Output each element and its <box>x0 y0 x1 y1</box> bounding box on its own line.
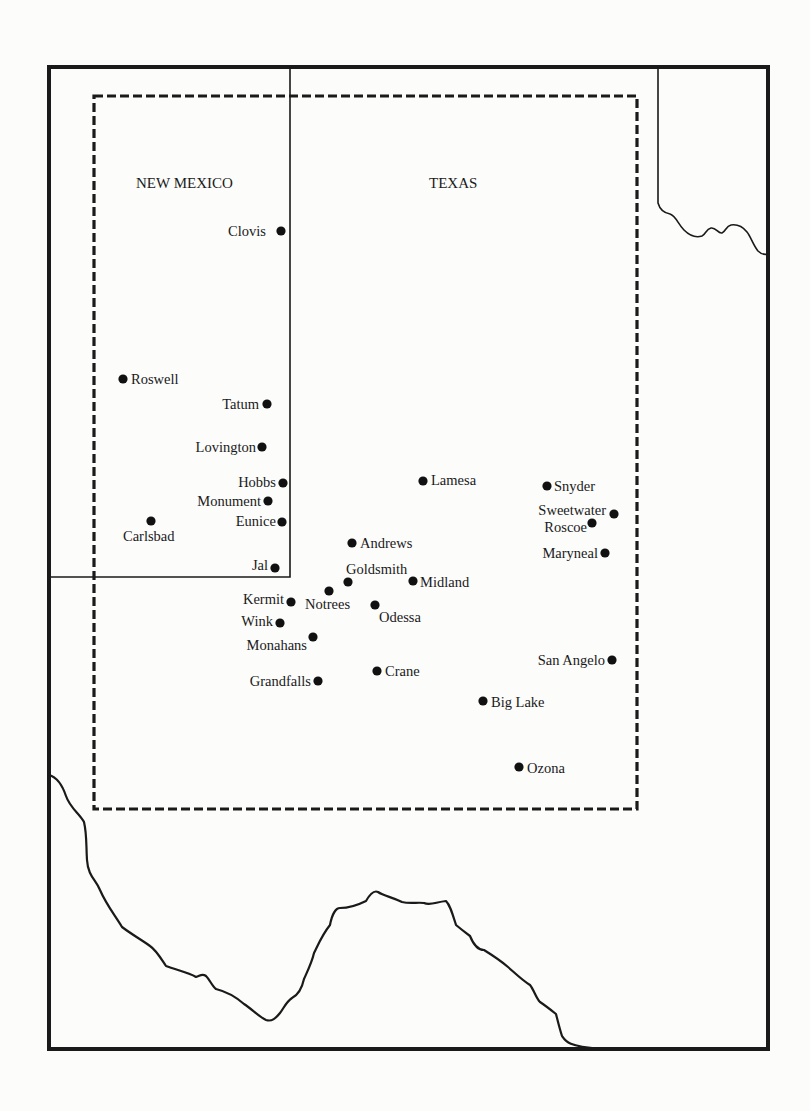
city-clovis: Clovis <box>228 223 286 239</box>
city-dot-icon <box>607 655 616 664</box>
city-dot-icon <box>587 518 596 527</box>
city-snyder: Snyder <box>542 478 595 494</box>
city-dot-icon <box>313 676 322 685</box>
city-dot-icon <box>278 478 287 487</box>
city-label: Big Lake <box>491 694 545 710</box>
ok-tx-border <box>658 67 768 254</box>
city-label: Roswell <box>131 371 179 387</box>
city-label: Carlsbad <box>123 528 175 544</box>
city-dot-icon <box>324 586 333 595</box>
city-label: Tatum <box>222 396 260 412</box>
city-label: Wink <box>241 613 273 629</box>
city-dot-icon <box>277 517 286 526</box>
city-label: Monument <box>197 493 261 509</box>
state-label-texas: TEXAS <box>429 175 477 191</box>
city-dot-icon <box>146 516 155 525</box>
city-eunice: Eunice <box>236 513 287 529</box>
city-label: Clovis <box>228 223 266 239</box>
city-dot-icon <box>263 496 272 505</box>
city-dot-icon <box>418 476 427 485</box>
city-grandfalls: Grandfalls <box>250 673 323 689</box>
city-label: Monahans <box>247 637 308 653</box>
city-dot-icon <box>308 632 317 641</box>
city-dot-icon <box>276 226 285 235</box>
city-label: Snyder <box>554 478 595 494</box>
city-dot-icon <box>408 576 417 585</box>
city-label: Midland <box>420 574 470 590</box>
city-label: Kermit <box>243 591 284 607</box>
city-label: Hobbs <box>238 474 276 490</box>
city-label: Andrews <box>360 535 413 551</box>
map-figure: NEW MEXICO TEXAS ClovisRoswellTatumLovin… <box>0 0 810 1111</box>
city-dot-icon <box>609 509 618 518</box>
city-label: Crane <box>385 663 420 679</box>
city-label: Sweetwater <box>538 502 606 518</box>
city-maryneal: Maryneal <box>542 545 609 561</box>
city-crane: Crane <box>372 663 419 679</box>
city-markers: ClovisRoswellTatumLovingtonHobbsMonument… <box>118 223 618 776</box>
city-dot-icon <box>372 666 381 675</box>
city-dot-icon <box>347 538 356 547</box>
city-label: San Angelo <box>538 652 605 668</box>
state-label-new-mexico: NEW MEXICO <box>136 175 233 191</box>
city-label: Notrees <box>305 596 350 612</box>
city-roswell: Roswell <box>118 371 178 387</box>
map-frame <box>49 67 768 1049</box>
city-dot-icon <box>343 577 352 586</box>
city-ozona: Ozona <box>514 760 565 776</box>
city-label: Jal <box>252 557 268 573</box>
city-label: Odessa <box>379 609 421 625</box>
city-hobbs: Hobbs <box>238 474 287 490</box>
city-monument: Monument <box>197 493 272 509</box>
city-label: Roscoe <box>544 519 587 535</box>
city-dot-icon <box>286 597 295 606</box>
city-dot-icon <box>257 442 266 451</box>
city-midland: Midland <box>408 574 469 590</box>
rio-grande-border <box>49 775 600 1049</box>
city-dot-icon <box>270 563 279 572</box>
city-big-lake: Big Lake <box>478 694 544 710</box>
city-roscoe: Roscoe <box>544 518 596 535</box>
city-tatum: Tatum <box>222 396 271 412</box>
city-dot-icon <box>600 548 609 557</box>
city-label: Grandfalls <box>250 673 312 689</box>
city-goldsmith: Goldsmith <box>343 561 408 587</box>
city-label: Goldsmith <box>346 561 408 577</box>
city-label: Lamesa <box>431 472 477 488</box>
city-san-angelo: San Angelo <box>538 652 617 668</box>
city-dot-icon <box>118 374 127 383</box>
city-dot-icon <box>275 618 284 627</box>
city-lovington: Lovington <box>196 439 267 455</box>
city-label: Lovington <box>196 439 257 455</box>
city-dot-icon <box>262 399 271 408</box>
city-andrews: Andrews <box>347 535 412 551</box>
city-dot-icon <box>478 696 487 705</box>
city-notrees: Notrees <box>305 586 350 612</box>
city-monahans: Monahans <box>247 632 318 653</box>
city-dot-icon <box>542 481 551 490</box>
study-area-boundary <box>94 96 637 809</box>
city-dot-icon <box>514 762 523 771</box>
city-kermit: Kermit <box>243 591 296 607</box>
city-label: Maryneal <box>542 545 598 561</box>
city-odessa: Odessa <box>370 600 421 625</box>
city-label: Ozona <box>527 760 565 776</box>
city-carlsbad: Carlsbad <box>123 516 175 544</box>
city-sweetwater: Sweetwater <box>538 502 618 519</box>
city-wink: Wink <box>241 613 284 629</box>
city-label: Eunice <box>236 513 276 529</box>
city-jal: Jal <box>252 557 280 573</box>
city-lamesa: Lamesa <box>418 472 476 488</box>
